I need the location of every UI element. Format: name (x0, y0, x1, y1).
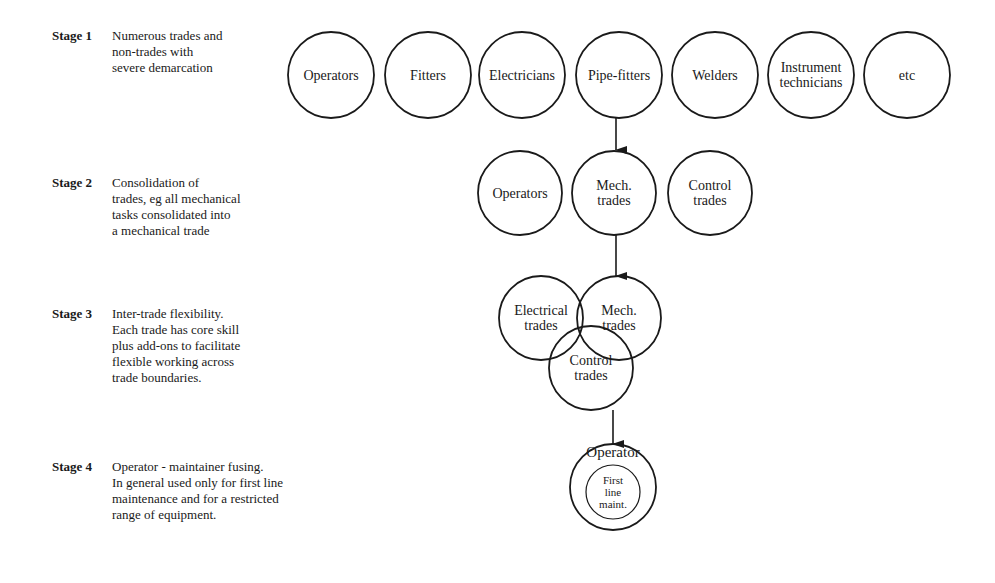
node-s1-welders: Welders (672, 32, 758, 118)
node-s3-mech-trades: Mech.trades (577, 276, 661, 360)
node-label: trades (597, 193, 630, 208)
node-label: Welders (692, 68, 738, 83)
node-s1-electricians: Electricians (479, 32, 565, 118)
node-label: Instrument (781, 60, 842, 75)
node-s2-operators: Operators (478, 151, 562, 235)
node-s3-control-trades: Controltrades (549, 326, 633, 410)
node-label: Operators (303, 68, 358, 83)
node-label: trades (574, 368, 607, 383)
node-label: Pipe-fitters (588, 68, 650, 83)
circles-layer: OperatorsFittersElectriciansPipe-fitters… (288, 32, 950, 530)
node-label: maint. (599, 498, 627, 510)
node-label: Mech. (596, 178, 631, 193)
node-label: Electricians (489, 68, 555, 83)
node-s2-control-trades: Controltrades (668, 151, 752, 235)
node-label: First (603, 474, 623, 486)
arrows-layer (613, 118, 616, 444)
node-label: trades (693, 193, 726, 208)
node-s1-pipe-fitters: Pipe-fitters (576, 32, 662, 118)
node-label: etc (899, 68, 915, 83)
node-label: Fitters (410, 68, 446, 83)
node-s1-operators: Operators (288, 32, 374, 118)
trade-flexibility-diagram: OperatorsFittersElectriciansPipe-fitters… (0, 0, 995, 583)
node-label: technicians (780, 75, 843, 90)
node-label: trades (524, 318, 557, 333)
node-label: Control (570, 353, 613, 368)
node-label: Control (689, 178, 732, 193)
node-s4-first-line-maint: Firstlinemaint. (586, 465, 640, 519)
node-label: line (605, 486, 622, 498)
node-label: Operators (492, 186, 547, 201)
node-s3-electrical-trades: Electricaltrades (499, 276, 583, 360)
node-s1-instrument-technicians: Instrumenttechnicians (768, 32, 854, 118)
node-label: Electrical (514, 303, 568, 318)
node-s1-fitters: Fitters (385, 32, 471, 118)
node-label: trades (602, 318, 635, 333)
node-s1-etc: etc (864, 32, 950, 118)
node-label: Operator (586, 444, 639, 460)
node-label: Mech. (601, 303, 636, 318)
node-s2-mech-trades: Mech.trades (572, 151, 656, 235)
